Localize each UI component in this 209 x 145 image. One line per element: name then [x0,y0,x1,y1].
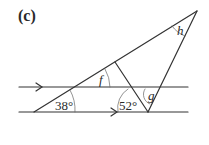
angle-label-f: f [99,72,105,87]
geometry-figure: (c) 38° 52° f g [0,0,209,145]
angle-label-h: h [177,23,184,38]
angle-label-g: g [148,88,155,103]
angle-arc-f [105,69,110,87]
angle-label-38: 38° [55,98,73,113]
part-label: (c) [18,7,36,25]
angle-label-52: 52° [119,98,137,113]
